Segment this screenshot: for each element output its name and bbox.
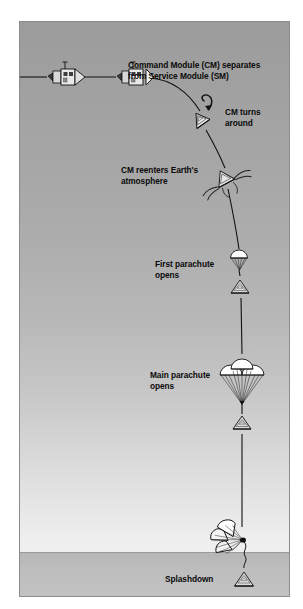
single-parachute-icon: [231, 250, 248, 270]
diagram-frame: Command Module (CM) separates from Servi…: [19, 21, 290, 597]
collapsed-parachute-icon: [207, 517, 246, 568]
reentry-diagram-figure: Command Module (CM) separates from Servi…: [0, 0, 303, 609]
label-reentry: CM reenters Earth's atmosphere: [121, 165, 198, 187]
label-splashdown: Splashdown: [165, 574, 213, 585]
label-first-parachute: First parachute opens: [155, 259, 214, 281]
capsule-under-drogue-icon: [231, 280, 249, 293]
csm-spacecraft-icon: [48, 62, 85, 85]
trajectory-path: [20, 77, 242, 527]
capsule-reentry-flames-icon: [196, 158, 257, 208]
capsule-under-main-icon: [233, 416, 251, 429]
label-main-parachute: Main parachute opens: [150, 370, 210, 392]
capsule-rotation-arrow-icon: [189, 95, 212, 129]
label-turn-around: CM turns around: [225, 107, 289, 129]
splashdown-capsule-icon: [235, 572, 254, 586]
label-separation: Command Module (CM) separates from Servi…: [128, 60, 260, 82]
triple-parachute-icon: [220, 359, 264, 405]
